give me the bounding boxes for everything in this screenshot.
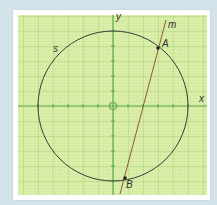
x-axis-label: x <box>198 93 205 104</box>
y-axis-label: y <box>115 11 122 22</box>
line-m-label: m <box>168 19 176 30</box>
circle-s-label: s <box>53 43 58 54</box>
point-b-label: B <box>126 179 133 190</box>
coordinate-diagram: y x m s A B <box>0 0 217 205</box>
point-a-label: A <box>161 38 169 49</box>
point-a <box>156 46 160 50</box>
